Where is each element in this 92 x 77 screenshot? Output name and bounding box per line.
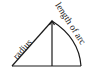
arc-length-label: length of arc xyxy=(53,1,88,47)
radius-label: radius xyxy=(11,37,34,61)
sector-diagram: radius length of arc xyxy=(0,0,92,77)
